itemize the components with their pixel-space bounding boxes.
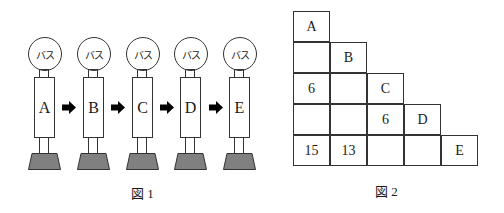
neck-top: [39, 69, 49, 77]
neck-bottom: [39, 137, 49, 153]
bus-label: バス: [231, 47, 249, 62]
neck-top: [88, 69, 98, 77]
body-label: D: [185, 99, 197, 117]
grid-cell: [293, 104, 330, 135]
neck-bottom: [88, 137, 98, 153]
grid-cell: 15: [293, 135, 330, 166]
body-label: C: [137, 99, 148, 117]
grid-cell: B: [330, 42, 367, 73]
grid-cell: [367, 135, 404, 166]
body-label: A: [39, 99, 51, 117]
grid-cell: E: [441, 135, 478, 166]
bus-label: バス: [182, 47, 200, 62]
body-rect: D: [180, 77, 201, 138]
grid-cell: 6: [367, 104, 404, 135]
unit-c: バス C: [123, 0, 163, 180]
neck-top: [137, 69, 147, 77]
neck-bottom: [137, 137, 147, 153]
bus-label: バス: [134, 47, 152, 62]
grid-cell: 13: [330, 135, 367, 166]
bus-label: バス: [36, 47, 54, 62]
unit-e: バス E: [220, 0, 260, 180]
grid-cell: A: [293, 11, 330, 42]
bus-circle: バス: [77, 37, 111, 71]
figure-1-caption: 図 1: [131, 183, 154, 202]
figure-1: バス A バス B バス C バス D バス E 図 1: [0, 0, 280, 213]
body-label: E: [235, 99, 245, 117]
bus-circle: バス: [126, 37, 160, 71]
body-rect: A: [34, 77, 55, 138]
base-trapezoid: [223, 153, 256, 170]
base-trapezoid: [28, 153, 61, 170]
grid-cell: 6: [293, 73, 330, 104]
grid-cell: [330, 73, 367, 104]
figure-2-caption: 図 2: [375, 181, 398, 200]
grid-cell: [293, 42, 330, 73]
grid-cell: [330, 104, 367, 135]
neck-top: [234, 69, 244, 77]
base-trapezoid: [126, 153, 159, 170]
grid-cell: [404, 135, 441, 166]
base-trapezoid: [77, 153, 110, 170]
unit-a: バス A: [25, 0, 65, 180]
bus-circle: バス: [223, 37, 257, 71]
neck-top: [185, 69, 195, 77]
unit-d: バス D: [171, 0, 211, 180]
body-label: B: [88, 99, 99, 117]
body-rect: B: [83, 77, 104, 138]
bus-circle: バス: [28, 37, 62, 71]
grid-cell: D: [404, 104, 441, 135]
body-rect: C: [132, 77, 153, 138]
base-trapezoid: [174, 153, 207, 170]
neck-bottom: [185, 137, 195, 153]
grid-cell: C: [367, 73, 404, 104]
neck-bottom: [234, 137, 244, 153]
bus-label: バス: [85, 47, 103, 62]
unit-b: バス B: [74, 0, 114, 180]
bus-circle: バス: [174, 37, 208, 71]
body-rect: E: [229, 77, 250, 138]
